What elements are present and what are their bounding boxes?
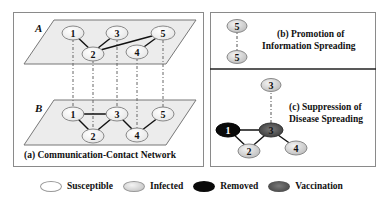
susceptible-swatch-icon <box>40 181 62 192</box>
label-a3: 3 <box>115 28 120 39</box>
label-b5: 5 <box>161 109 166 120</box>
caption-panel-b-line2: Information Spreading <box>262 41 356 51</box>
legend-label: Vaccination <box>295 181 343 191</box>
legend-item-infected: Infected <box>123 181 183 192</box>
label-b4: 4 <box>135 130 140 141</box>
label-b2: 2 <box>91 131 96 142</box>
label-a1: 1 <box>71 28 76 39</box>
layer-a-plane <box>24 20 196 64</box>
legend-label: Infected <box>150 181 183 191</box>
legend-label: Removed <box>220 181 258 191</box>
removed-swatch-icon <box>193 181 215 192</box>
legend-item-vaccination: Vaccination <box>268 181 343 192</box>
label-c4: 4 <box>294 143 299 154</box>
caption-panel-c-line1: (c) Suppression of <box>289 102 362 112</box>
label-a2: 2 <box>91 49 96 60</box>
legend: Susceptible Infected Removed Vaccination <box>40 178 353 194</box>
label-b3: 3 <box>115 109 120 120</box>
label-c3: 3 <box>269 125 274 136</box>
caption-panel-b-line1: (b) Promotion of <box>277 29 344 39</box>
layer-b-label: B <box>35 102 42 114</box>
legend-item-susceptible: Susceptible <box>40 181 113 192</box>
layer-b-plane <box>24 100 196 145</box>
label-b-top: 5 <box>235 21 240 32</box>
label-c2: 2 <box>247 146 252 157</box>
vaccination-swatch-icon <box>268 181 290 192</box>
label-b-bottom: 5 <box>235 52 240 63</box>
caption-panel-c-line2: Disease Spreading <box>289 114 363 124</box>
layer-a-label: A <box>35 22 42 34</box>
legend-item-removed: Removed <box>193 181 258 192</box>
label-b1: 1 <box>71 109 76 120</box>
infected-swatch-icon <box>123 181 145 192</box>
label-a4: 4 <box>135 47 140 58</box>
label-a5: 5 <box>161 28 166 39</box>
legend-label: Susceptible <box>67 181 113 191</box>
label-c3-top: 3 <box>269 80 274 91</box>
label-c1: 1 <box>226 125 231 136</box>
caption-panel-a: (a) Communication-Contact Network <box>24 150 176 160</box>
